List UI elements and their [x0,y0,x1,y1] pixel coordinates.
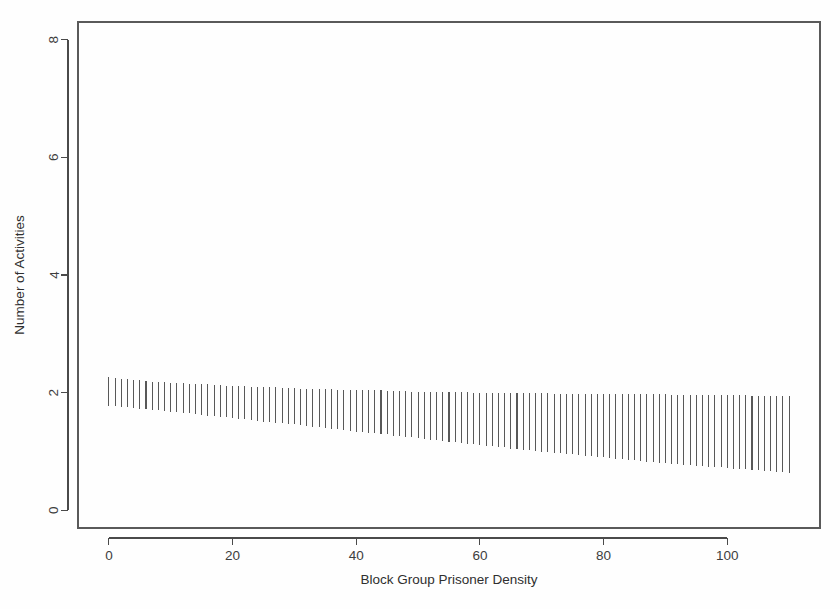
y-axis-tick-label: 8 [47,36,62,44]
x-axis-title: Block Group Prisoner Density [360,572,537,587]
y-axis: 02468 [47,36,69,514]
x-axis-tick-label: 20 [225,548,240,563]
y-axis-tick-label: 2 [47,389,62,397]
x-axis-tick-label: 100 [716,548,739,563]
chart-canvas: 02468 020406080100 Block Group Prisoner … [0,0,840,609]
chart-figure: 02468 020406080100 Block Group Prisoner … [0,0,840,609]
y-axis-tick-label: 4 [47,271,62,279]
y-axis-title: Number of Activities [12,215,27,335]
x-axis-tick-label: 40 [349,548,364,563]
x-axis-tick-label: 0 [105,548,113,563]
y-axis-tick-label: 0 [47,507,62,515]
x-axis: 020406080100 [105,538,738,563]
confidence-interval-segments [109,377,789,472]
x-axis-tick-label: 80 [596,548,611,563]
x-axis-tick-label: 60 [472,548,487,563]
y-axis-tick-label: 6 [47,154,62,162]
